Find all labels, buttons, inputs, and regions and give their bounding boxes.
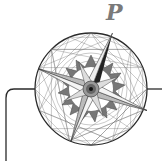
- left-connector-line: [6, 89, 35, 161]
- compass-body: [19, 13, 162, 161]
- compass-rose-icon: [0, 0, 162, 161]
- logo-letter: P: [106, 1, 123, 23]
